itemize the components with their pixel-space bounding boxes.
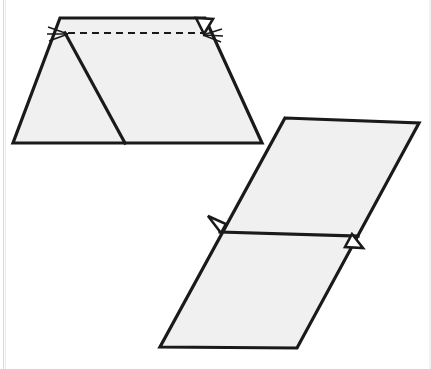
scan-artifact-line-left-secondary [5,0,6,369]
geometry-diagram: Geometric figure: trapezoid and parallel… [0,0,431,369]
figure-canvas: Geometric figure: trapezoid and parallel… [0,0,431,369]
scan-artifact-line-left [3,0,4,369]
parallelogram-left-tab [208,216,226,233]
parallelogram-group [160,118,419,348]
trapezoid-outline [13,18,262,143]
trapezoid-group [13,18,262,143]
